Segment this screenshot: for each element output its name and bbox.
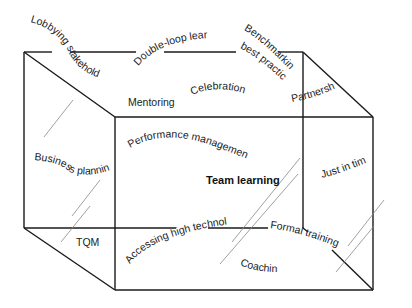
box-diagram: Lobbying stakeholders Double-loop learni… [0,0,412,308]
label-benchmarking: Benchmarking [0,0,297,71]
label-mentoring: Mentoring [128,96,175,108]
label-formal-training: Formal training [270,218,342,249]
label-best-practice: best practice [0,0,289,82]
label-celebration: Celebration [188,79,247,97]
label-lobbying-stakeholders: Lobbying stakeholders [0,0,102,79]
label-tqm: TQM [76,236,99,248]
center-label-team-learning: Team learning [206,174,280,186]
